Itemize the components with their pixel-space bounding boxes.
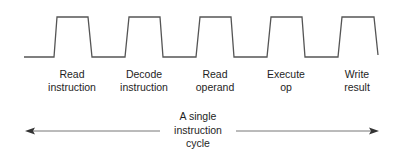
stage-label-read-operand: Read operand [175,68,255,94]
stage-label-write-result: Write result [317,68,397,94]
stage-label-execute-op: Execute op [246,68,326,94]
stage-label-decode-instruction: Decode instruction [104,68,184,94]
stage-label-read-instruction: Read instruction [32,68,112,94]
clock-signal-line [24,17,378,57]
instruction-cycle-label: A single instruction cycle [158,110,238,151]
